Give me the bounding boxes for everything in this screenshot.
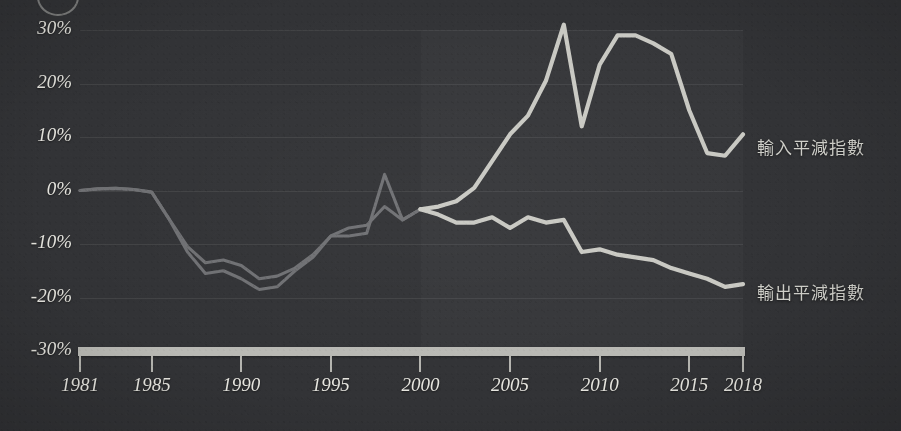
export-deflator-line-late	[420, 209, 743, 287]
plot-lines	[0, 0, 901, 431]
legend-import-label: 輸入平減指數	[757, 134, 865, 159]
chart-screenshot: 30%20%10%0%-10%-20%-30% 1981198519901995…	[0, 0, 901, 431]
import-deflator-line-early	[80, 188, 420, 278]
legend-export-label: 輸出平減指數	[757, 279, 865, 304]
import-deflator-line-late	[420, 25, 743, 210]
